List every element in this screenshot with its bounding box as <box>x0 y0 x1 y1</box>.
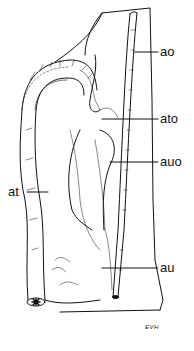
mesentery-outline <box>55 8 163 312</box>
label-at: at <box>8 185 19 198</box>
label-auo: auo <box>160 155 182 168</box>
label-ao: ao <box>160 45 174 58</box>
organ-body <box>69 55 115 230</box>
label-ato: ato <box>160 112 178 125</box>
artist-signature: EVH <box>145 324 159 330</box>
intestine-loop <box>20 60 100 306</box>
label-au: au <box>160 261 174 274</box>
aorta-vessel <box>113 12 138 299</box>
